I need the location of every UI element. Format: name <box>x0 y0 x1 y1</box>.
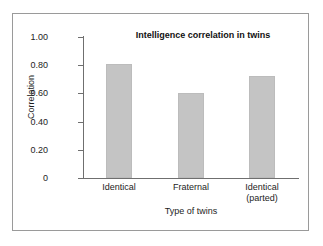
y-tick-1 <box>78 150 83 151</box>
bar-fraternal <box>178 93 204 178</box>
figure-frame: Intelligence correlation in twins Correl… <box>12 13 309 231</box>
y-tick-label-2: 0.40 <box>8 118 48 127</box>
bar-identical <box>106 64 132 178</box>
y-axis-line <box>83 36 84 179</box>
x-tick-label-fraternal: Fraternal <box>155 182 227 193</box>
y-tick-2 <box>78 122 83 123</box>
x-tick-label-identical-parted: Identical (parted) <box>226 182 298 204</box>
x-axis-title: Type of twins <box>83 206 299 216</box>
x-axis-line <box>83 178 299 179</box>
y-tick-label-1: 0.20 <box>8 146 48 155</box>
y-tick-label-5: 1.00 <box>8 33 48 42</box>
x-tick-label-identical: Identical <box>83 182 155 193</box>
bar-identical-parted <box>249 76 275 178</box>
y-tick-label-4: 0.80 <box>8 61 48 70</box>
bar-chart: Intelligence correlation in twins Correl… <box>13 14 310 232</box>
chart-title: Intelligence correlation in twins <box>103 30 303 41</box>
y-tick-4 <box>78 65 83 66</box>
y-tick-5 <box>78 37 83 38</box>
y-tick-0 <box>78 178 83 179</box>
y-tick-label-3: 0.60 <box>8 89 48 98</box>
y-tick-3 <box>78 93 83 94</box>
y-tick-label-0: 0 <box>8 174 48 183</box>
